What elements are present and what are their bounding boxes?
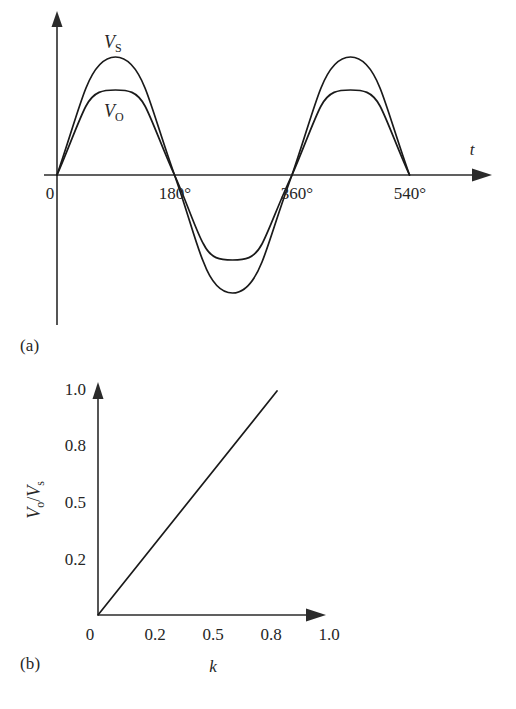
panel-b-y-axis-label-den-sub: s — [33, 481, 47, 486]
panel-b-x-axis — [98, 609, 326, 622]
svg-text:Vo/Vs: Vo/Vs — [24, 481, 47, 519]
panel-b-x-axis-arrowhead — [306, 609, 326, 622]
panel-b-ytick-1-0: 1.0 — [65, 380, 86, 399]
panel-b-y-axis-label: Vo/Vs — [24, 481, 47, 519]
panel-b-ytick-0-8: 0.8 — [65, 436, 86, 455]
panel-a-chart: t VS VO 0 180° 360° 540° — [0, 0, 516, 330]
panel-b-chart: 1.0 0.8 0.5 0.2 0 0.2 0.5 0.8 1.0 k Vo/V… — [0, 370, 516, 690]
panel-a-x-axis-label: t — [470, 140, 476, 159]
panel-a-tick-540: 540° — [394, 184, 426, 203]
panel-b-xtick-0-8: 0.8 — [260, 625, 281, 644]
panel-b-xtick-0-5: 0.5 — [202, 625, 223, 644]
panel-a-x-axis — [44, 169, 492, 182]
panel-b-x-axis-label: k — [209, 657, 217, 676]
panel-a-tick-180: 180° — [159, 184, 191, 203]
panel-b-y-axis-arrowhead — [93, 382, 104, 399]
panel-b-ytick-0-2: 0.2 — [65, 550, 86, 569]
panel-a-caption: (a) — [20, 336, 39, 356]
curve-label-vo-sub: O — [115, 110, 124, 124]
curve-label-vo: VO — [104, 101, 124, 124]
panel-b-xtick-1-0: 1.0 — [318, 625, 339, 644]
panel-b-xtick-0-2: 0.2 — [144, 625, 165, 644]
curve-label-vs: VS — [104, 32, 122, 55]
panel-a-tick-0: 0 — [46, 184, 55, 203]
panel-a-x-axis-arrowhead — [472, 169, 492, 182]
figure-container: t VS VO 0 180° 360° 540° (a) 1.0 0.8 — [0, 0, 516, 709]
line-vo-vs-vs-k — [98, 391, 277, 615]
curve-label-vs-sub: S — [115, 41, 122, 55]
panel-a-tick-360: 360° — [281, 184, 313, 203]
panel-b-ytick-0-5: 0.5 — [65, 493, 86, 512]
panel-a-y-axis-arrowhead — [52, 11, 63, 27]
panel-b-xtick-0: 0 — [86, 625, 95, 644]
panel-b-y-axis — [93, 382, 104, 615]
panel-b-caption: (b) — [20, 654, 40, 674]
